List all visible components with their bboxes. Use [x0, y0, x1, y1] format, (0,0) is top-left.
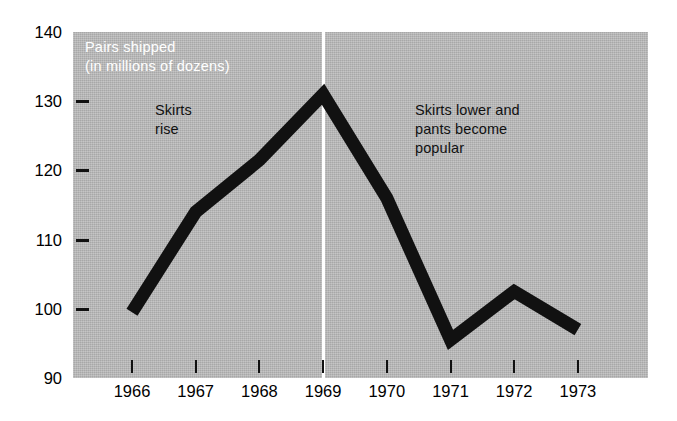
y-axis-label: 140: [16, 24, 62, 41]
x-axis-tick: [577, 360, 579, 373]
x-axis-label: 1970: [357, 383, 417, 400]
x-axis-label: 1972: [484, 383, 544, 400]
annotation-skirts-rise: Skirts rise: [155, 101, 192, 139]
y-axis-tick: [76, 308, 89, 311]
y-axis-tick: [76, 169, 89, 172]
annotation-line: pants become: [415, 121, 507, 137]
plot-area: Pairs shipped (in millions of dozens): [73, 32, 648, 378]
y-axis-label: 100: [16, 301, 62, 318]
x-axis-label: 1967: [166, 383, 226, 400]
y-axis-tick: [76, 100, 89, 103]
annotation-line: popular: [415, 140, 464, 156]
x-axis-label: 1966: [102, 383, 162, 400]
y-axis: 14013012011010090: [0, 0, 62, 421]
x-axis-tick: [258, 360, 260, 373]
chart-figure: Pairs shipped (in millions of dozens) 14…: [0, 0, 677, 421]
x-axis-tick: [513, 360, 515, 373]
y-axis-tick: [76, 239, 89, 242]
annotation-line: Skirts lower and: [415, 102, 520, 118]
y-axis-label: 120: [16, 162, 62, 179]
data-series-line: [73, 32, 648, 378]
x-axis-tick: [195, 360, 197, 373]
annotation-line: rise: [155, 121, 179, 137]
x-axis-label: 1971: [421, 383, 481, 400]
x-axis-label: 1969: [293, 383, 353, 400]
x-axis-label: 1968: [229, 383, 289, 400]
annotation-line: Skirts: [155, 102, 192, 118]
x-axis-tick: [322, 360, 324, 373]
x-axis-tick: [450, 360, 452, 373]
y-axis-label: 110: [16, 232, 62, 249]
y-axis-label: 130: [16, 93, 62, 110]
annotation-skirts-lower-pants-popular: Skirts lower and pants become popular: [415, 101, 520, 158]
y-axis-label: 90: [16, 370, 62, 387]
x-axis-label: 1973: [548, 383, 608, 400]
x-axis-tick: [386, 360, 388, 373]
x-axis-tick: [131, 360, 133, 373]
